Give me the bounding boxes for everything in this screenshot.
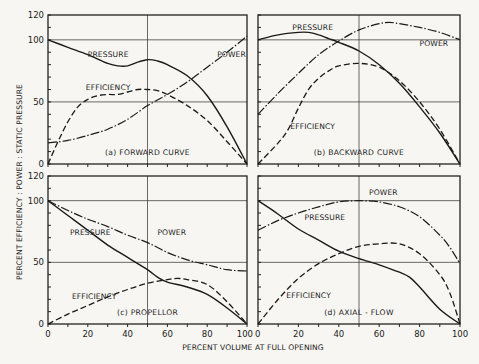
x-axis-title: PERCENT VOLUME AT FULL OPENING (182, 343, 324, 352)
efficiency-label: EFFICIENCY (290, 122, 335, 131)
x-tick-label: 60 (162, 329, 173, 339)
x-tick-label: 40 (122, 329, 133, 339)
y-tick-label: 120 (28, 10, 44, 20)
fan-characteristic-chart: 050100120PRESSUREPOWEREFFICIENCY(a) FORW… (0, 0, 479, 364)
x-tick-label: 80 (202, 329, 213, 339)
y-tick-label: 100 (28, 196, 44, 206)
pressure-label: PRESSURE (70, 228, 111, 237)
efficiency-label: EFFICIENCY (286, 291, 331, 300)
power-label: POWER (369, 188, 398, 197)
y-tick-label: 0 (39, 159, 44, 169)
x-tick-label: 40 (333, 329, 344, 339)
x-tick-label: 0 (255, 329, 260, 339)
pressure-label: PRESSURE (292, 23, 333, 32)
y-tick-label: 50 (33, 257, 44, 267)
panel-c: 050100120020406080100PRESSUREPOWEREFFICI… (28, 171, 253, 339)
efficiency-label: EFFICIENCY (86, 83, 131, 92)
power-label: POWER (157, 228, 186, 237)
efficiency-label: EFFICIENCY (72, 292, 117, 301)
x-tick-label: 20 (293, 329, 304, 339)
x-tick-label: 100 (452, 329, 468, 339)
power-label: POWER (217, 50, 246, 59)
x-tick-label: 80 (414, 329, 425, 339)
x-tick-label: 100 (237, 329, 253, 339)
pressure-label: PRESSURE (88, 50, 129, 59)
x-tick-label: 20 (82, 329, 93, 339)
x-tick-label: 60 (374, 329, 385, 339)
pressure-label: PRESSURE (304, 213, 345, 222)
y-tick-label: 50 (33, 97, 44, 107)
panel-title: (d) AXIAL - FLOW (324, 308, 394, 317)
panel-title: (b) BACKWARD CURVE (314, 148, 404, 157)
panel-b: PRESSUREPOWEREFFICIENCY(b) BACKWARD CURV… (258, 15, 460, 167)
y-axis-title: PERCENT EFFICIENCY : POWER : STATIC PRES… (15, 84, 24, 280)
panel-title: (c) PROPELLOR (117, 308, 178, 317)
panel-d: 020406080100PRESSUREPOWEREFFICIENCY(d) A… (255, 176, 468, 339)
y-tick-label: 0 (39, 319, 44, 329)
x-tick-label: 0 (45, 329, 50, 339)
panel-title: (a) FORWARD CURVE (105, 148, 190, 157)
y-tick-label: 120 (28, 171, 44, 181)
panel-a: 050100120PRESSUREPOWEREFFICIENCY(a) FORW… (28, 10, 247, 169)
power-label: POWER (420, 39, 449, 48)
y-tick-label: 100 (28, 35, 44, 45)
